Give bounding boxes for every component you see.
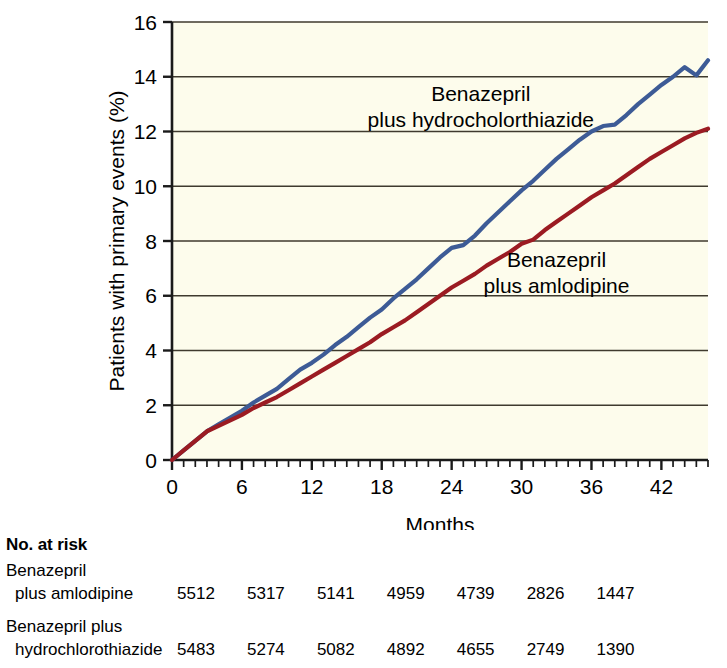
- risk-value-cell: 1390: [587, 638, 643, 661]
- y-tick-labels: 0246810121416: [134, 11, 158, 472]
- y-tick-label: 16: [134, 11, 157, 34]
- series-annotation-label: Benazepril: [507, 248, 606, 271]
- risk-value-cell: 4739: [448, 582, 504, 605]
- risk-value-cell: 1447: [587, 582, 643, 605]
- x-tick-labels: 06121824303642: [166, 475, 673, 498]
- x-tick-label: 6: [236, 475, 248, 498]
- x-axis-title: Months: [406, 513, 475, 530]
- x-tick-label: 12: [300, 475, 323, 498]
- risk-value-cell: 5141: [308, 582, 364, 605]
- number-at-risk-table: No. at risk Benazepril plus amlodipine 5…: [0, 530, 727, 668]
- chart-region: 0246810121416 06121824303642 Benazeprilp…: [0, 0, 727, 530]
- y-axis-title: Patients with primary events (%): [105, 90, 128, 391]
- survival-curve-chart: 0246810121416 06121824303642 Benazeprilp…: [0, 0, 727, 530]
- risk-value-cell: 4959: [378, 582, 434, 605]
- y-tick-label: 2: [145, 394, 157, 417]
- x-tick-label: 0: [166, 475, 178, 498]
- x-tick-label: 36: [580, 475, 603, 498]
- x-minor-ticks: [172, 460, 708, 470]
- series-annotation-label: Benazepril: [431, 82, 530, 105]
- risk-row-values: 5483527450824892465527491390: [206, 638, 721, 661]
- x-tick-label: 18: [370, 475, 393, 498]
- x-tick-label: 24: [440, 475, 464, 498]
- series-annotation-label: plus amlodipine: [484, 274, 630, 297]
- y-tick-label: 6: [145, 284, 157, 307]
- risk-value-cell: 4655: [448, 638, 504, 661]
- y-tick-label: 8: [145, 230, 157, 253]
- series-annotation-label: plus hydrocholorthiazide: [368, 108, 594, 131]
- figure-container: 0246810121416 06121824303642 Benazeprilp…: [0, 0, 727, 668]
- y-tick-label: 4: [145, 339, 157, 362]
- y-tick-label: 10: [134, 175, 157, 198]
- risk-value-cell: 2749: [518, 638, 574, 661]
- y-tick-label: 12: [134, 120, 157, 143]
- risk-value-cell: 4892: [378, 638, 434, 661]
- risk-value-cell: 5483: [168, 638, 224, 661]
- risk-row-values: 5512531751414959473928261447: [206, 582, 721, 605]
- y-major-ticks: [163, 22, 172, 460]
- risk-value-cell: 5317: [238, 582, 294, 605]
- x-tick-label: 42: [650, 475, 673, 498]
- x-tick-label: 30: [510, 475, 533, 498]
- risk-value-cell: 5274: [238, 638, 294, 661]
- risk-row-label-line1: Benazepril plus: [6, 617, 122, 636]
- risk-value-cell: 5512: [168, 582, 224, 605]
- risk-value-cell: 5082: [308, 638, 364, 661]
- risk-row-label-line1: Benazepril: [6, 561, 86, 580]
- y-tick-label: 0: [145, 449, 157, 472]
- risk-value-cell: 2826: [518, 582, 574, 605]
- risk-table-title: No. at risk: [6, 535, 87, 555]
- y-tick-label: 14: [134, 65, 158, 88]
